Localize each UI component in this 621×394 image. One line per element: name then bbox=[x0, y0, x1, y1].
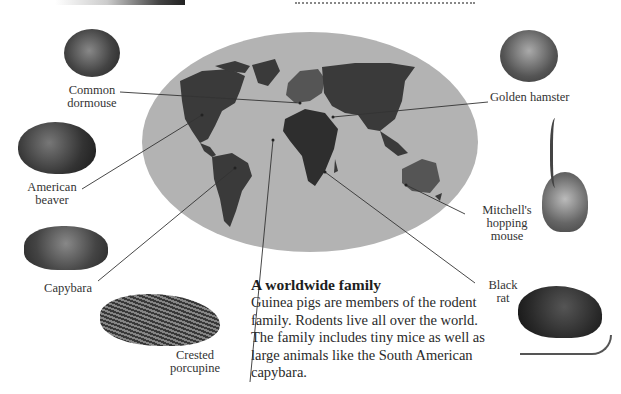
golden-hamster-illustration bbox=[500, 30, 558, 82]
label-common-dormouse: Common dormouse bbox=[62, 84, 122, 110]
label-american-beaver: American beaver bbox=[22, 181, 82, 207]
caption-title: A worldwide family bbox=[251, 276, 381, 294]
hopping-mouse-illustration bbox=[542, 172, 588, 232]
beaver-illustration bbox=[18, 122, 96, 174]
label-crested-porcupine: Crested porcupine bbox=[160, 349, 230, 375]
label-capybara: Capybara bbox=[38, 282, 98, 295]
capybara-illustration bbox=[24, 226, 108, 270]
label-golden-hamster: Golden hamster bbox=[490, 91, 600, 104]
label-mitchells-hopping-mouse: Mitchell's hopping mouse bbox=[478, 204, 536, 243]
dormouse-illustration bbox=[64, 29, 120, 77]
hopping-mouse-tail bbox=[550, 118, 563, 188]
caption-body: Guinea pigs are members of the rodent fa… bbox=[251, 294, 491, 382]
black-rat-tail bbox=[520, 335, 612, 355]
